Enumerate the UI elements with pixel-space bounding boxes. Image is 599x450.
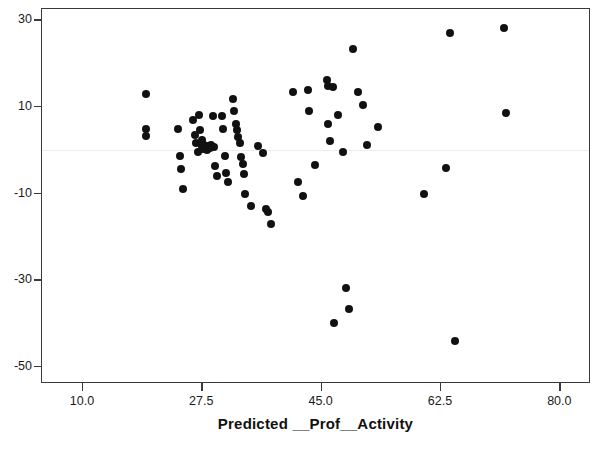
data-point bbox=[330, 319, 338, 327]
data-point bbox=[363, 141, 371, 149]
data-point bbox=[264, 208, 272, 216]
cropped-title-fragment bbox=[150, 0, 450, 5]
data-point bbox=[267, 220, 275, 228]
zero-reference-line bbox=[42, 150, 589, 151]
x-tick-mark bbox=[559, 383, 561, 391]
data-point bbox=[304, 86, 312, 94]
data-point bbox=[247, 202, 255, 210]
y-tick-mark bbox=[34, 106, 41, 108]
data-point bbox=[224, 178, 232, 186]
data-point bbox=[142, 90, 150, 98]
data-point bbox=[236, 139, 244, 147]
data-point bbox=[209, 112, 217, 120]
data-point bbox=[219, 125, 227, 133]
y-tick-label: -30 bbox=[0, 273, 32, 285]
data-point bbox=[354, 88, 362, 96]
data-point bbox=[342, 284, 350, 292]
x-tick-label: 45.0 bbox=[291, 394, 351, 408]
y-tick-mark bbox=[34, 193, 41, 195]
data-point bbox=[174, 125, 182, 133]
data-point bbox=[451, 337, 459, 345]
data-point bbox=[179, 185, 187, 193]
data-point bbox=[442, 164, 450, 172]
data-point bbox=[259, 149, 267, 157]
data-point bbox=[502, 109, 510, 117]
data-point bbox=[221, 152, 229, 160]
x-tick-label: 27.5 bbox=[171, 394, 231, 408]
data-point bbox=[222, 169, 230, 177]
data-point bbox=[329, 83, 337, 91]
plot-frame bbox=[41, 8, 590, 383]
data-point bbox=[218, 112, 226, 120]
x-tick-mark bbox=[82, 383, 84, 391]
y-tick-label: -50 bbox=[0, 360, 32, 372]
y-tick-label: 10 bbox=[0, 100, 32, 112]
data-point bbox=[420, 190, 428, 198]
data-point bbox=[211, 162, 219, 170]
y-tick-mark bbox=[34, 279, 41, 281]
data-point bbox=[345, 305, 353, 313]
data-point bbox=[349, 45, 357, 53]
plot-area bbox=[42, 9, 589, 382]
data-point bbox=[195, 111, 203, 119]
data-point bbox=[359, 101, 367, 109]
x-tick-label: 62.5 bbox=[410, 394, 470, 408]
y-tick-mark bbox=[34, 366, 41, 368]
data-point bbox=[299, 192, 307, 200]
data-point bbox=[339, 148, 347, 156]
data-point bbox=[239, 160, 247, 168]
data-point bbox=[213, 172, 221, 180]
x-axis-title: Predicted __Prof__Activity bbox=[41, 415, 590, 432]
scatter-plot-figure: 3010-10-30-50 10.027.545.062.580.0 Predi… bbox=[0, 0, 599, 450]
data-point bbox=[142, 132, 150, 140]
x-tick-mark bbox=[321, 383, 323, 391]
data-point bbox=[230, 107, 238, 115]
data-point bbox=[294, 178, 302, 186]
data-point bbox=[176, 152, 184, 160]
data-point bbox=[196, 126, 204, 134]
x-tick-mark bbox=[201, 383, 203, 391]
y-tick-mark bbox=[34, 19, 41, 21]
y-tick-label: 30 bbox=[0, 13, 32, 25]
x-tick-mark bbox=[440, 383, 442, 391]
data-point bbox=[177, 165, 185, 173]
data-point bbox=[311, 161, 319, 169]
data-point bbox=[500, 24, 508, 32]
data-point bbox=[305, 107, 313, 115]
x-tick-label: 80.0 bbox=[529, 394, 589, 408]
data-point bbox=[374, 123, 382, 131]
data-point bbox=[446, 29, 454, 37]
y-tick-label: -10 bbox=[0, 187, 32, 199]
data-point bbox=[241, 190, 249, 198]
data-point bbox=[334, 111, 342, 119]
data-point bbox=[326, 137, 334, 145]
x-tick-label: 10.0 bbox=[52, 394, 112, 408]
data-point bbox=[229, 95, 237, 103]
data-point bbox=[289, 88, 297, 96]
data-point bbox=[240, 170, 248, 178]
data-point bbox=[324, 120, 332, 128]
